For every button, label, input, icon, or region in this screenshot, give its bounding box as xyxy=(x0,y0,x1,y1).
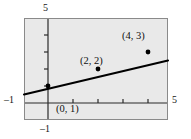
data-point-label-2-2: (2, 2) xyxy=(80,56,103,67)
chart-container: 5 –1 –1 5 (0, 1) (2, 2) (4, 3) xyxy=(0,0,191,139)
x-axis-min-label: –1 xyxy=(4,95,14,105)
chart-graphics xyxy=(0,0,191,139)
data-point xyxy=(146,50,151,55)
data-point-label-4-3: (4, 3) xyxy=(122,31,145,42)
y-axis-min-label: –1 xyxy=(40,124,50,134)
data-point-label-0-1: (0, 1) xyxy=(56,104,79,115)
data-point xyxy=(96,67,101,72)
y-axis-max-label: 5 xyxy=(43,3,48,13)
data-point xyxy=(46,84,51,89)
x-axis-max-label: 5 xyxy=(172,95,177,105)
